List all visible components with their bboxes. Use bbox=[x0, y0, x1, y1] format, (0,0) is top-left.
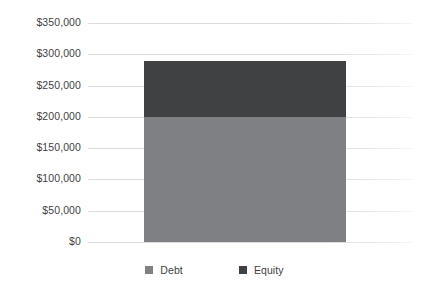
y-axis-tick bbox=[88, 211, 101, 212]
legend: DebtEquity bbox=[0, 264, 429, 276]
legend-item-equity[interactable]: Equity bbox=[239, 264, 284, 276]
stacked-bar-chart: $350,000$300,000$250,000$200,000$150,000… bbox=[0, 0, 429, 298]
y-axis-tick bbox=[88, 179, 101, 180]
y-axis-tick bbox=[88, 54, 101, 55]
y-axis-tick bbox=[88, 242, 101, 243]
y-axis-tick-label: $350,000 bbox=[0, 16, 81, 28]
legend-swatch-icon bbox=[239, 266, 247, 274]
y-axis-tick-label: $250,000 bbox=[0, 79, 81, 91]
bar-segment-debt[interactable] bbox=[144, 117, 346, 242]
bar-segment-equity[interactable] bbox=[144, 61, 346, 117]
legend-item-debt[interactable]: Debt bbox=[145, 264, 183, 276]
legend-swatch-icon bbox=[145, 266, 153, 274]
y-axis-tick-label: $150,000 bbox=[0, 141, 81, 153]
y-axis-tick bbox=[88, 86, 101, 87]
y-axis: $350,000$300,000$250,000$200,000$150,000… bbox=[0, 0, 101, 298]
y-axis-tick-label: $100,000 bbox=[0, 172, 81, 184]
y-axis-tick-label: $0 bbox=[0, 235, 81, 247]
bar-stack[interactable] bbox=[144, 0, 346, 298]
y-axis-tick bbox=[88, 23, 101, 24]
y-axis-tick-label: $300,000 bbox=[0, 47, 81, 59]
y-axis-tick-label: $50,000 bbox=[0, 204, 81, 216]
y-axis-tick bbox=[88, 117, 101, 118]
legend-label: Equity bbox=[254, 264, 284, 276]
legend-label: Debt bbox=[160, 264, 183, 276]
y-axis-tick bbox=[88, 148, 101, 149]
y-axis-tick-label: $200,000 bbox=[0, 110, 81, 122]
